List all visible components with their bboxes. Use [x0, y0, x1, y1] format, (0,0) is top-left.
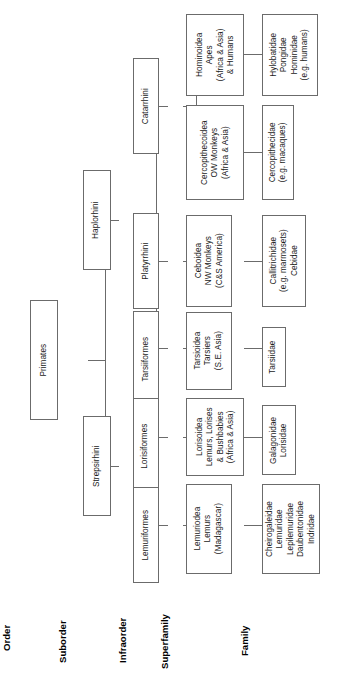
node-cercopithecoidea[interactable]: Cercopithecoidea OW Monkeys (Africa & As…	[186, 105, 244, 200]
node-hominoidea[interactable]: Hominoidea Apes (Africa & Asia) & Humans	[186, 14, 244, 96]
node-tarsioidea[interactable]: Tarsioidea Tarsiers (S.E. Asia)	[186, 312, 232, 390]
node-haplorhini-label: Haplorhini	[92, 201, 102, 238]
node-lemuriodea[interactable]: Lemuriodea Lemurs (Madagascar)	[186, 484, 232, 574]
rank-label-family: Family	[239, 626, 250, 656]
node-lorisoidea-family[interactable]: Galagonidae Lorisidae	[262, 405, 296, 475]
node-lemuriodea-family-label: Cheirogaleidae Lemuridae Lepilemuridae D…	[265, 501, 317, 557]
node-lorisiformes[interactable]: Lorisiformes	[133, 398, 159, 494]
node-ceboidea-family-label: Callitrichidae (e.g. marmosets) Cebidae	[268, 230, 299, 293]
node-primates-label: Primates	[39, 344, 49, 377]
node-cercopithecidae-label: Cercopithecidae (e.g. macaques)	[268, 123, 289, 183]
node-lorisiformes-label: Lorisiformes	[141, 423, 151, 468]
node-catarrhini[interactable]: Catarrhini	[133, 58, 159, 154]
node-hominoidea-family[interactable]: Hylobatidae Pongidae Hominidae (e.g. hum…	[262, 14, 318, 96]
node-platyrrhini-label: Platyrrhini	[141, 243, 151, 280]
node-tarsiidae-label: Tarsiidae	[269, 340, 279, 373]
node-lorisoidea-family-label: Galagonidae Lorisidae	[269, 417, 290, 464]
node-ceboidea-family[interactable]: Callitrichidae (e.g. marmosets) Cebidae	[262, 215, 306, 307]
node-hominoidea-family-label: Hylobatidae Pongidae Hominidae (e.g. hum…	[269, 29, 311, 80]
rank-label-superfamily: Superfamily	[159, 614, 170, 669]
node-strepsirhini-label: Strepsirhini	[92, 445, 102, 487]
rank-label-order: Order	[1, 625, 12, 651]
node-lemuriformes-label: Lemuriformes	[141, 510, 151, 561]
node-tarsiiformes-label: Tarsiiformes	[141, 337, 151, 382]
node-haplorhini[interactable]: Haplorhini	[83, 170, 111, 270]
node-cercopithecidae[interactable]: Cercopithecidae (e.g. macaques)	[262, 105, 294, 200]
rank-label-infraorder: Infraorder	[117, 618, 128, 663]
node-tarsiiformes[interactable]: Tarsiiformes	[133, 311, 159, 407]
node-tarsiidae[interactable]: Tarsiidae	[262, 327, 286, 387]
node-hominoidea-label: Hominoidea Apes (Africa & Asia) & Humans	[194, 29, 236, 82]
node-lemuriformes[interactable]: Lemuriformes	[133, 487, 159, 583]
node-tarsioidea-label: Tarsioidea Tarsiers (S.E. Asia)	[193, 331, 224, 370]
rank-label-suborder: Suborder	[57, 620, 68, 663]
node-lemuriodea-family[interactable]: Cheirogaleidae Lemuridae Lepilemuridae D…	[262, 484, 320, 574]
node-platyrrhini[interactable]: Platyrrhini	[133, 213, 159, 309]
node-ceboidea[interactable]: Ceboidea NW Monkeys (C&S America)	[186, 215, 232, 307]
taxonomy-diagram: Primates Haplorhini Strepsirhini Catarrh…	[0, 0, 348, 690]
node-catarrhini-label: Catarrhini	[141, 88, 151, 124]
node-lorisoidea[interactable]: Lorisoidea Lemurs, Lorises & Bushbabies …	[186, 398, 244, 476]
node-strepsirhini[interactable]: Strepsirhini	[83, 416, 111, 516]
node-lemuriodea-label: Lemuriodea Lemurs (Madagascar)	[193, 503, 224, 554]
node-lorisoidea-label: Lorisoidea Lemurs, Lorises & Bushbabies …	[194, 408, 236, 467]
node-primates[interactable]: Primates	[30, 300, 58, 420]
node-cercopithecoidea-label: Cercopithecoidea OW Monkeys (Africa & As…	[199, 120, 230, 185]
connector-primates-out	[88, 360, 106, 361]
node-ceboidea-label: Ceboidea NW Monkeys (C&S America)	[193, 234, 224, 289]
